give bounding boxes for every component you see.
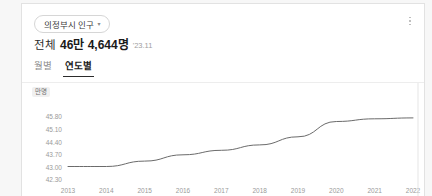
region-selector-button[interactable]: 의정부시 인구 ▾	[34, 15, 110, 33]
population-line-chart: 45.8045.1044.4043.7043.0042.302013201420…	[22, 83, 425, 196]
kebab-dot	[409, 20, 411, 22]
chart-container: 만명 45.8045.1044.4043.7043.0042.302013201…	[22, 83, 424, 196]
kebab-menu-icon[interactable]	[404, 13, 416, 29]
y-axis-tick: 44.40	[46, 139, 63, 146]
kebab-dot	[409, 17, 411, 19]
kebab-dot	[409, 24, 411, 26]
x-axis-tick: 2017	[214, 187, 229, 194]
summary-value: 46만 4,644명	[60, 35, 129, 52]
x-axis-tick: 2015	[137, 187, 152, 194]
x-axis-tick: 2016	[176, 187, 191, 194]
tab-monthly[interactable]: 월별	[34, 58, 52, 77]
x-axis-tick: 2018	[252, 187, 267, 194]
tab-yearly[interactable]: 연도별	[65, 58, 92, 77]
x-axis-tick: 2014	[99, 187, 114, 194]
population-card: 의정부시 인구 ▾ 전체 46만 4,644명 '23.11 월별 연도별 만명…	[21, 3, 425, 196]
x-axis-tick: 2020	[329, 187, 344, 194]
y-axis-tick: 45.10	[46, 126, 63, 133]
y-axis-tick: 42.30	[46, 176, 63, 183]
population-series-line	[68, 118, 413, 167]
region-selector-label: 의정부시 인구	[44, 18, 94, 30]
chevron-down-icon: ▾	[97, 21, 100, 27]
x-axis-tick: 2013	[61, 187, 76, 194]
y-axis-tick: 43.70	[46, 151, 63, 158]
x-axis-tick: 2021	[367, 187, 382, 194]
y-axis-tick: 43.00	[46, 164, 63, 171]
x-axis-tick: 2019	[291, 187, 306, 194]
summary-date: '23.11	[133, 41, 153, 50]
page-background: 의정부시 인구 ▾ 전체 46만 4,644명 '23.11 월별 연도별 만명…	[0, 0, 432, 196]
summary-stat: 전체 46만 4,644명 '23.11	[34, 35, 152, 52]
summary-label: 전체	[34, 36, 56, 52]
y-axis-tick: 45.80	[46, 113, 63, 120]
period-tabs: 월별 연도별	[34, 58, 92, 77]
